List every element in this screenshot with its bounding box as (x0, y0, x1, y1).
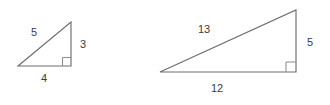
large-triangle-outline (160, 10, 296, 72)
small-triangle-horizontal-leg-label: 4 (41, 73, 47, 84)
small-triangle-vertical-leg-label: 3 (80, 39, 86, 50)
triangles-svg (0, 0, 330, 105)
large-triangle (160, 10, 296, 72)
small-triangle-outline (18, 22, 71, 66)
large-triangle-horizontal-leg-label: 12 (211, 83, 223, 94)
large-triangle-vertical-leg-label: 5 (307, 37, 313, 48)
small-triangle-right-angle-icon (63, 58, 72, 67)
small-triangle-hypotenuse-label: 5 (31, 27, 37, 38)
large-triangle-hypotenuse-label: 13 (198, 24, 210, 35)
large-triangle-right-angle-icon (286, 62, 296, 72)
triangles-figure: 5 3 4 13 5 12 (0, 0, 330, 105)
small-triangle (18, 22, 71, 66)
